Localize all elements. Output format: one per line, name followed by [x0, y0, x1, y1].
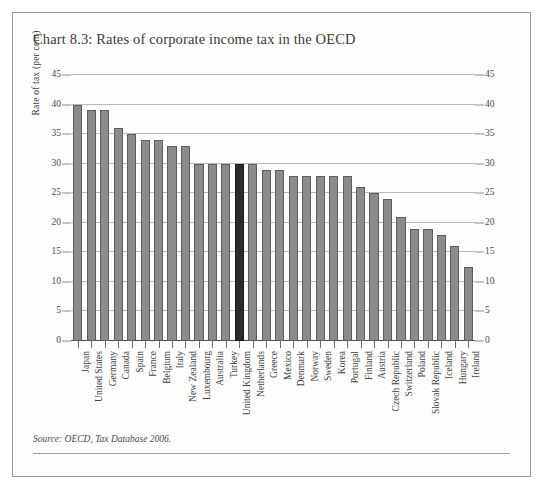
x-tick-mark: [199, 341, 200, 348]
x-tick-slot: [300, 341, 313, 349]
y-tick-mark-right-5: [475, 311, 484, 312]
bar: [302, 176, 311, 342]
bar: [154, 140, 163, 341]
y-tick-mark-right-10: [475, 281, 484, 282]
bar: [114, 128, 123, 341]
x-tick-slot: [340, 341, 353, 349]
y-tick-mark-left-30: [62, 163, 71, 164]
x-tick-mark: [401, 341, 402, 348]
x-tick-slot: [219, 341, 232, 349]
x-tick-slot: [408, 341, 421, 349]
y-tick-label-right-20: 20: [485, 218, 495, 228]
bar-slot: [246, 75, 259, 341]
bar: [369, 193, 378, 341]
y-tick-label-right-25: 25: [485, 188, 495, 198]
bar-slot: [111, 75, 124, 341]
bar-slot: [462, 75, 475, 341]
x-tick-slot: [179, 341, 192, 349]
x-tick-slot: [152, 341, 165, 349]
bar: [127, 134, 136, 341]
bar-slot: [98, 75, 111, 341]
bar: [262, 170, 271, 341]
y-tick-label-left-40: 40: [52, 100, 62, 110]
x-tick-slot: [273, 341, 286, 349]
bar-slot: [71, 75, 84, 341]
bar: [87, 110, 96, 341]
y-tick-label-left-25: 25: [52, 188, 62, 198]
x-tick-mark: [293, 341, 294, 348]
x-tick-mark: [374, 341, 375, 348]
x-label-slot: Turkey: [219, 351, 232, 451]
bar: [329, 176, 338, 342]
bar-slot: [287, 75, 300, 341]
x-label-slot: Netherlands: [246, 351, 259, 451]
y-tick-mark-right-30: [475, 163, 484, 164]
x-tick-mark: [172, 341, 173, 348]
bar-slot: [192, 75, 205, 341]
x-tick-label: Ireland: [472, 351, 482, 378]
x-tick-mark: [455, 341, 456, 348]
y-tick-mark-left-0: [62, 341, 71, 342]
x-tick-slot: [327, 341, 340, 349]
x-tick-slot: [138, 341, 151, 349]
y-tick-label-left-0: 0: [56, 336, 61, 346]
bar-slot: [340, 75, 353, 341]
x-label-slot: Czech Republic: [381, 351, 394, 451]
bar: [410, 229, 419, 341]
y-tick-mark-right-40: [475, 104, 484, 105]
y-tick-mark-left-5: [62, 311, 71, 312]
x-tick-slot: [287, 341, 300, 349]
bar: [100, 110, 109, 341]
bar: [423, 229, 432, 341]
y-tick-label-right-15: 15: [485, 248, 495, 258]
x-tick-mark: [159, 341, 160, 348]
bar-slot: [260, 75, 273, 341]
x-tick-slot: [435, 341, 448, 349]
x-tick-mark: [307, 341, 308, 348]
x-label-slot: Australia: [206, 351, 219, 451]
x-tick-mark: [347, 341, 348, 348]
bar-slot: [233, 75, 246, 341]
x-label-slot: New Zealand: [179, 351, 192, 451]
source-divider: [33, 453, 510, 454]
bar: [356, 187, 365, 341]
y-tick-mark-right-20: [475, 222, 484, 223]
bar-slot: [165, 75, 178, 341]
x-tick-mark: [185, 341, 186, 348]
bar: [464, 267, 473, 341]
y-tick-mark-left-15: [62, 252, 71, 253]
x-label-slot: Iceland: [435, 351, 448, 451]
x-label-slot: Denmark: [287, 351, 300, 451]
x-tick-mark: [428, 341, 429, 348]
y-tick-label-right-45: 45: [485, 70, 495, 80]
y-tick-label-right-0: 0: [485, 336, 490, 346]
x-tick-mark: [226, 341, 227, 348]
x-tick-slot: [381, 341, 394, 349]
x-label-slot: Slovak Republic: [421, 351, 434, 451]
bar-slot: [206, 75, 219, 341]
x-label-slot: Portugal: [340, 351, 353, 451]
y-tick-mark-left-35: [62, 134, 71, 135]
bar-slot: [448, 75, 461, 341]
bar-slot: [435, 75, 448, 341]
bar-slot: [381, 75, 394, 341]
chart-figure: Chart 8.3: Rates of corporate income tax…: [12, 12, 531, 477]
bar: [396, 217, 405, 341]
bar: [450, 246, 459, 341]
bar-series: [71, 75, 475, 341]
y-tick-label-right-10: 10: [485, 277, 495, 287]
x-tick-mark: [361, 341, 362, 348]
x-label-slot: Korea: [327, 351, 340, 451]
x-tick-mark: [253, 341, 254, 348]
x-label-slot: Ireland: [462, 351, 475, 451]
bar: [221, 164, 230, 341]
y-tick-mark-left-20: [62, 222, 71, 223]
x-tick-mark: [468, 341, 469, 348]
x-label-slot: Switzerland: [394, 351, 407, 451]
x-tick-mark: [280, 341, 281, 348]
plot-area: 005510101515202025253030353540404545: [71, 75, 475, 341]
bar: [167, 146, 176, 341]
x-tick-mark: [320, 341, 321, 348]
x-tick-slot: [313, 341, 326, 349]
y-tick-mark-right-15: [475, 252, 484, 253]
